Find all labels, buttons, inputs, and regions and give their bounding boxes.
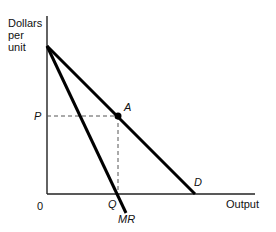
- demand-curve: [47, 46, 195, 194]
- quantity-label: Q: [108, 198, 117, 210]
- marginal-revenue-curve: [47, 46, 126, 213]
- x-axis-label: Output: [226, 198, 259, 210]
- y-axis-label-line3: unit: [8, 41, 42, 53]
- y-axis-label-line1: Dollars: [8, 17, 42, 29]
- y-axis-label: Dollars per unit: [8, 17, 42, 53]
- demand-label: D: [194, 176, 202, 188]
- mr-label: MR: [118, 213, 135, 225]
- y-axis-label-line2: per: [8, 29, 42, 41]
- point-a-marker: [115, 113, 122, 120]
- origin-label: 0: [37, 200, 43, 212]
- point-a-label: A: [124, 101, 131, 113]
- price-label: P: [34, 110, 41, 122]
